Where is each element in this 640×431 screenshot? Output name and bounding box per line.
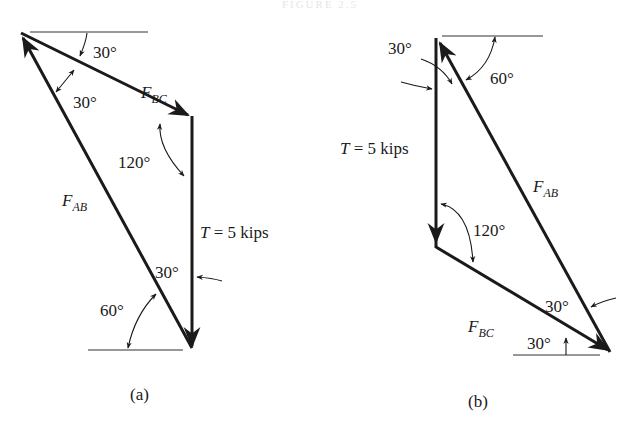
- angle-label-top: 30°: [93, 43, 117, 62]
- force-label-fbc: FBC: [467, 317, 495, 340]
- vector-fab: [440, 43, 610, 352]
- angle-pointer-30-t: [401, 82, 432, 89]
- angle-label-top-60: 60°: [490, 69, 514, 88]
- angle-pointer-30-right: [591, 298, 616, 307]
- force-label-tension: T = 5 kips: [200, 223, 269, 242]
- force-label-fab: FAB: [532, 177, 559, 200]
- angle-label-fab-fbc: 30°: [73, 93, 97, 112]
- angle-arc-top-30: [80, 33, 87, 56]
- angle-arc-30: [56, 70, 74, 92]
- panel-b: 30° 60° 120° 30° 30° T = 5 kips FAB FBC …: [340, 36, 616, 411]
- angle-arc-60: [128, 294, 156, 348]
- angle-label-t-fab: 30°: [155, 263, 179, 282]
- angle-label-fbc-fab: 30°: [545, 297, 569, 316]
- caption-a: (a): [130, 385, 149, 404]
- angle-label-bottom: 60°: [100, 301, 124, 320]
- figure-title: FIGURE 2.5: [282, 0, 358, 10]
- force-label-tension: T = 5 kips: [340, 139, 409, 158]
- angle-label-corner: 120°: [473, 221, 505, 240]
- angle-pointer-30: [197, 277, 222, 281]
- force-triangle-figure: FIGURE 2.5 30° 30° 120° 30° 60° FBC FAB …: [0, 0, 640, 431]
- angle-label-bottom: 30°: [527, 334, 551, 353]
- angle-arc-120: [160, 124, 184, 176]
- caption-b: (b): [468, 392, 488, 411]
- angle-label-corner: 120°: [118, 153, 150, 172]
- force-label-fbc: FBC: [140, 83, 168, 106]
- angle-label-top-30: 30°: [388, 39, 412, 58]
- force-label-fab: FAB: [61, 191, 88, 214]
- panel-a: 30° 30° 120° 30° 60° FBC FAB T = 5 kips …: [21, 32, 269, 404]
